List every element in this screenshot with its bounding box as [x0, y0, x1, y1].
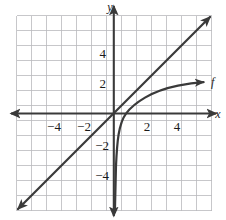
- y-tick-label-4: 4: [100, 46, 107, 61]
- y-tick-label-neg4: −4: [95, 168, 109, 183]
- coordinate-plane: −4 −2 2 4 4 2 −2 −4 x y f: [0, 0, 226, 220]
- x-tick-label-neg4: −4: [47, 119, 61, 134]
- logarithmic-curve-f: [115, 82, 204, 212]
- curve-label-f: f: [211, 75, 216, 89]
- x-axis-label: x: [214, 107, 221, 121]
- x-tick-label-neg2: −2: [77, 119, 91, 134]
- y-tick-label-neg2: −2: [95, 138, 109, 153]
- y-axis-label: y: [106, 0, 113, 14]
- x-tick-label-2: 2: [144, 119, 151, 134]
- y-tick-label-2: 2: [100, 76, 107, 91]
- graph-figure: −4 −2 2 4 4 2 −2 −4 x y f: [0, 0, 226, 220]
- x-tick-label-4: 4: [174, 119, 181, 134]
